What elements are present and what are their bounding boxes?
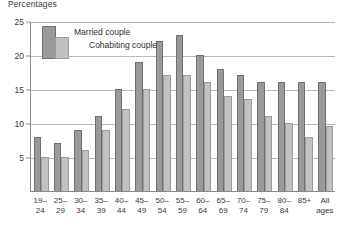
bar-cohabiting bbox=[102, 130, 110, 191]
bar-married bbox=[257, 82, 265, 191]
bar-cohabiting bbox=[143, 89, 151, 191]
bar-cohabiting bbox=[204, 82, 212, 191]
x-tick-label: 50– 54 bbox=[152, 196, 172, 215]
bar-cohabiting bbox=[285, 123, 293, 191]
bar-cohabiting bbox=[82, 150, 90, 191]
legend-label-cohabiting: Cohabiting couple bbox=[89, 40, 157, 50]
bar-cohabiting bbox=[61, 157, 69, 191]
legend-label-married: Married couple bbox=[74, 27, 130, 37]
bar-married bbox=[115, 89, 123, 191]
x-tick-label: 80– 84 bbox=[274, 196, 294, 215]
y-tick-label-10: 10 bbox=[15, 119, 24, 129]
x-tick-label: 70– 74 bbox=[233, 196, 253, 215]
bar-cohabiting bbox=[163, 75, 171, 191]
x-tick-label: 65– 69 bbox=[213, 196, 233, 215]
legend-swatch-cohabiting bbox=[55, 37, 69, 59]
x-tick-label: 55– 59 bbox=[172, 196, 192, 215]
y-tick-label-15: 15 bbox=[15, 85, 24, 95]
x-tick-label: 40– 44 bbox=[111, 196, 131, 215]
x-tick-label: 30– 34 bbox=[71, 196, 91, 215]
bar-cohabiting bbox=[244, 99, 252, 191]
bar-married bbox=[298, 82, 306, 191]
bar-married bbox=[196, 55, 204, 191]
percentages-bar-chart: Percentages 510152025 19– 2425– 2930– 34… bbox=[0, 0, 342, 234]
x-tick-label: All ages bbox=[315, 196, 335, 215]
bar-cohabiting bbox=[265, 116, 273, 191]
bar-group bbox=[255, 22, 275, 191]
x-tick-label: 25– 29 bbox=[50, 196, 70, 215]
bar-group bbox=[275, 22, 295, 191]
bar-group bbox=[316, 22, 336, 191]
bar-group bbox=[234, 22, 254, 191]
y-axis: 510152025 bbox=[0, 22, 30, 192]
bar-married bbox=[217, 69, 225, 191]
bar-group bbox=[295, 22, 315, 191]
bar-cohabiting bbox=[183, 75, 191, 191]
chart-legend: Married couple Cohabiting couple bbox=[42, 26, 202, 66]
bar-married bbox=[278, 82, 286, 191]
x-tick-label: 45– 49 bbox=[132, 196, 152, 215]
x-tick-label: 35– 39 bbox=[91, 196, 111, 215]
x-tick-label: 19– 24 bbox=[30, 196, 50, 215]
bar-cohabiting bbox=[326, 126, 334, 191]
bar-group bbox=[214, 22, 234, 191]
bar-married bbox=[135, 62, 143, 191]
bar-cohabiting bbox=[122, 109, 130, 191]
bar-married bbox=[74, 130, 82, 191]
y-tick-label-25: 25 bbox=[15, 17, 24, 27]
x-tick-label: 60– 64 bbox=[193, 196, 213, 215]
legend-swatch-married bbox=[42, 26, 56, 59]
bar-married bbox=[318, 82, 326, 191]
chart-title: Percentages bbox=[8, 0, 57, 9]
bar-cohabiting bbox=[224, 96, 232, 191]
bar-married bbox=[34, 137, 42, 191]
x-tick-label: 85+ bbox=[294, 196, 314, 206]
y-tick-label-5: 5 bbox=[19, 153, 24, 163]
y-tick-label-20: 20 bbox=[15, 51, 24, 61]
bar-cohabiting bbox=[305, 137, 313, 191]
bar-cohabiting bbox=[41, 157, 49, 191]
bar-married bbox=[95, 116, 103, 191]
bar-married bbox=[54, 143, 62, 191]
bar-married bbox=[237, 75, 245, 191]
x-axis-labels: 19– 2425– 2930– 3435– 3940– 4445– 4950– … bbox=[30, 196, 335, 232]
x-tick-label: 75– 79 bbox=[254, 196, 274, 215]
